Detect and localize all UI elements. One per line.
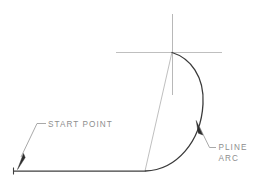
start-point-leader-leg bbox=[21, 124, 37, 158]
pline-label: PLINE bbox=[219, 143, 248, 152]
arc-radius-chord-line bbox=[145, 52, 172, 171]
start-point-label: START POINT bbox=[48, 120, 113, 129]
pline-arc-segment bbox=[146, 53, 204, 172]
cad-drawing-canvas: START POINT PLINE ARC bbox=[0, 0, 257, 182]
cad-vector-drawing: START POINT PLINE ARC bbox=[0, 0, 257, 182]
pline-arc-leader-leg bbox=[199, 126, 210, 148]
arc-label: ARC bbox=[219, 154, 239, 163]
